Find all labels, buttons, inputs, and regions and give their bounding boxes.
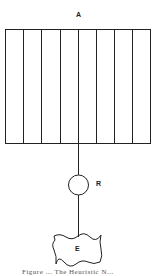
label-r: R [96,180,101,187]
node-r [69,175,89,195]
label-e: E [75,245,80,252]
label-a: A [76,11,81,18]
figure-caption: Figure ... The Heuristic N... [22,268,114,276]
